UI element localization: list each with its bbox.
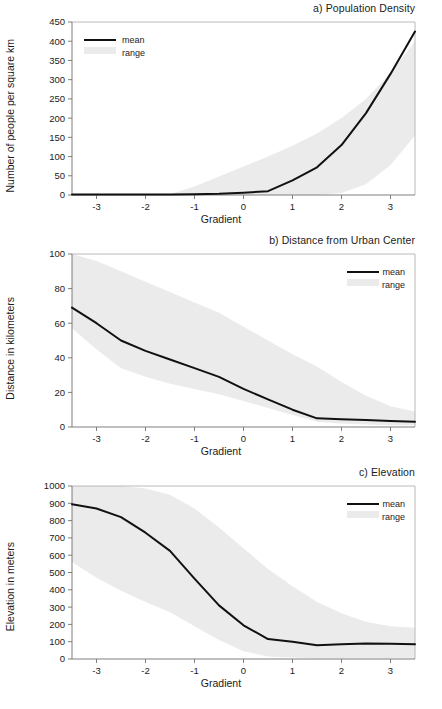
panel-distance-from-urban-center: b) Distance from Urban Center Distance i… xyxy=(0,232,442,464)
y-tick-label: 1000 xyxy=(44,480,65,491)
y-tick-label: 300 xyxy=(49,74,65,85)
x-tick-label: 3 xyxy=(388,433,393,444)
y-tick-label: 40 xyxy=(54,352,65,363)
panel-c-plot: 01002003004005006007008009001000-3-2-101… xyxy=(0,464,442,696)
panel-b-xlabel: Gradient xyxy=(0,445,442,457)
figure-sheet: a) Population Density Number of people p… xyxy=(0,0,442,709)
y-tick-label: 150 xyxy=(49,132,65,143)
x-tick-label: 1 xyxy=(290,201,295,212)
panel-population-density: a) Population Density Number of people p… xyxy=(0,0,442,232)
y-tick-label: 300 xyxy=(49,602,65,613)
y-tick-label: 600 xyxy=(49,550,65,561)
y-tick-label: 0 xyxy=(60,653,65,664)
y-tick-label: 80 xyxy=(54,283,65,294)
y-tick-label: 50 xyxy=(54,170,65,181)
panel-c-xlabel: Gradient xyxy=(0,677,442,689)
legend-range-label: range xyxy=(122,48,145,58)
x-tick-label: 2 xyxy=(339,433,344,444)
panel-a-plot: 050100150200250300350400450-3-2-10123mea… xyxy=(0,0,442,232)
y-tick-label: 0 xyxy=(60,421,65,432)
legend-mean-label: mean xyxy=(122,35,145,45)
y-tick-label: 100 xyxy=(49,151,65,162)
legend-range-label: range xyxy=(382,512,405,522)
y-tick-label: 100 xyxy=(49,636,65,647)
x-tick-label: 0 xyxy=(241,433,246,444)
y-tick-label: 400 xyxy=(49,584,65,595)
y-tick-label: 200 xyxy=(49,113,65,124)
y-tick-label: 20 xyxy=(54,387,65,398)
x-tick-label: 2 xyxy=(339,201,344,212)
x-tick-label: -3 xyxy=(92,433,100,444)
legend-range-label: range xyxy=(382,280,405,290)
legend-mean-label: mean xyxy=(382,499,405,509)
x-tick-label: -2 xyxy=(141,665,149,676)
y-tick-label: 450 xyxy=(49,16,65,27)
x-tick-label: 3 xyxy=(388,201,393,212)
x-tick-label: -2 xyxy=(141,201,149,212)
x-tick-label: -3 xyxy=(92,665,100,676)
y-tick-label: 0 xyxy=(60,189,65,200)
y-tick-label: 700 xyxy=(49,532,65,543)
y-tick-label: 500 xyxy=(49,567,65,578)
legend-mean-label: mean xyxy=(382,267,405,277)
x-tick-label: 1 xyxy=(290,433,295,444)
panel-b-plot: 020406080100-3-2-10123meanrange xyxy=(0,232,442,464)
x-tick-label: -1 xyxy=(190,201,198,212)
y-tick-label: 100 xyxy=(49,248,65,259)
y-tick-label: 350 xyxy=(49,55,65,66)
x-tick-label: 0 xyxy=(241,201,246,212)
y-tick-label: 900 xyxy=(49,498,65,509)
y-tick-label: 400 xyxy=(49,36,65,47)
x-tick-label: 2 xyxy=(339,665,344,676)
legend-range-swatch xyxy=(84,47,116,54)
range-band xyxy=(72,41,415,195)
y-tick-label: 60 xyxy=(54,318,65,329)
x-tick-label: -1 xyxy=(190,665,198,676)
panel-elevation: c) Elevation Elevation in meters 0100200… xyxy=(0,464,442,709)
x-tick-label: -2 xyxy=(141,433,149,444)
x-tick-label: -1 xyxy=(190,433,198,444)
x-tick-label: 1 xyxy=(290,665,295,676)
y-tick-label: 800 xyxy=(49,515,65,526)
panel-a-xlabel: Gradient xyxy=(0,213,442,225)
x-tick-label: 0 xyxy=(241,665,246,676)
legend-range-swatch xyxy=(347,511,379,518)
y-tick-label: 250 xyxy=(49,93,65,104)
legend-range-swatch xyxy=(347,279,379,286)
x-tick-label: 3 xyxy=(388,665,393,676)
y-tick-label: 200 xyxy=(49,619,65,630)
x-tick-label: -3 xyxy=(92,201,100,212)
